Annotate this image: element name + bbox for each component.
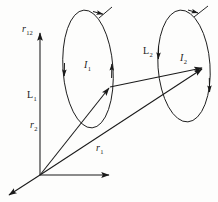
depth-axis	[9, 175, 40, 195]
current-loops-diagram: r12 L1 r2 I1 r1 L2 I2	[0, 0, 218, 202]
loop-1-top-current-arrow	[93, 12, 103, 15]
separation-vector-label: r12	[22, 24, 32, 34]
loop-1-tick-mark	[99, 7, 112, 18]
position-vector-r1-label: r1	[96, 143, 103, 153]
current-1-label: I1	[84, 60, 91, 70]
loop-1-label: L1	[27, 90, 36, 100]
loop-2-label: L2	[143, 46, 152, 56]
loop-2-tick-mark	[194, 6, 208, 17]
vector-r2	[40, 88, 109, 175]
current-2-label: I2	[180, 53, 187, 63]
position-vector-r2-label: r2	[30, 120, 37, 130]
loop-2-outline	[154, 8, 214, 123]
coordinate-axes	[9, 33, 109, 195]
